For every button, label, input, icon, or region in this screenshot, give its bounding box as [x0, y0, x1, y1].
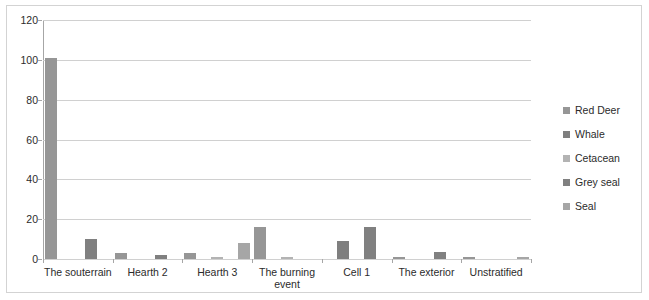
x-axis-tick-mark — [461, 259, 462, 263]
bars-layer — [43, 20, 531, 259]
y-axis-tick-label: 20 — [26, 213, 38, 225]
legend-item[interactable]: Seal — [563, 194, 643, 218]
legend-item-label: Whale — [575, 128, 605, 140]
y-axis-tick-mark — [38, 20, 42, 21]
y-axis-tick-label: 40 — [26, 173, 38, 185]
bar — [45, 58, 57, 259]
y-axis-tick-mark — [38, 60, 42, 61]
y-axis-tick-mark — [38, 219, 42, 220]
legend-item[interactable]: Whale — [563, 122, 643, 146]
bar — [238, 243, 250, 259]
legend-item-label: Seal — [575, 200, 596, 212]
bar — [184, 253, 196, 259]
x-axis-tick-label: The souterrain — [43, 266, 113, 278]
bar — [115, 253, 127, 259]
y-axis-tick-mark — [38, 259, 42, 260]
legend-item[interactable]: Red Deer — [563, 98, 643, 122]
bar — [155, 255, 167, 259]
bar — [254, 227, 266, 259]
legend-item[interactable]: Grey seal — [563, 170, 643, 194]
bar — [281, 257, 293, 259]
x-axis-tick-label: Unstratified — [461, 266, 531, 278]
bar — [211, 257, 223, 259]
x-axis-tick-mark — [531, 259, 532, 263]
bar — [463, 257, 475, 259]
x-axis-tick-label: The exterior — [392, 266, 462, 278]
x-axis-tick-mark — [113, 259, 114, 263]
legend-item-label: Cetacean — [575, 152, 620, 164]
x-axis-tick-mark — [182, 259, 183, 263]
y-axis-tick-label: 100 — [20, 54, 38, 66]
bar — [337, 241, 349, 259]
legend-swatch-icon — [563, 131, 570, 138]
y-axis-labels: 020406080100120 — [7, 20, 38, 259]
bar — [434, 252, 446, 259]
x-axis-tick-label: The burning event — [252, 266, 322, 290]
chart-legend: Red DeerWhaleCetaceanGrey sealSeal — [563, 98, 643, 218]
y-axis-tick-mark — [38, 179, 42, 180]
y-axis-tick-label: 80 — [26, 94, 38, 106]
gridline — [43, 259, 531, 260]
bar — [85, 239, 97, 259]
x-axis-tick-label: Cell 1 — [322, 266, 392, 278]
x-axis-tick-mark — [322, 259, 323, 263]
x-axis-labels: The souterrainHearth 2Hearth 3The burnin… — [43, 266, 531, 296]
x-axis-tick-mark — [43, 259, 44, 263]
y-axis-tick-mark — [38, 140, 42, 141]
x-axis-tick-label: Hearth 2 — [113, 266, 183, 278]
bar — [364, 227, 376, 259]
bar — [393, 257, 405, 259]
chart-container: 020406080100120 The souterrainHearth 2He… — [6, 5, 642, 293]
legend-item-label: Red Deer — [575, 104, 620, 116]
legend-swatch-icon — [563, 203, 570, 210]
legend-swatch-icon — [563, 179, 570, 186]
plot-area — [43, 20, 531, 259]
y-axis-tick-mark — [38, 100, 42, 101]
y-axis-tick-label: 60 — [26, 134, 38, 146]
legend-swatch-icon — [563, 107, 570, 114]
y-axis-tick-label: 120 — [20, 14, 38, 26]
x-axis-tick-mark — [252, 259, 253, 263]
legend-swatch-icon — [563, 155, 570, 162]
legend-item[interactable]: Cetacean — [563, 146, 643, 170]
x-axis-tick-label: Hearth 3 — [182, 266, 252, 278]
x-axis-tick-mark — [392, 259, 393, 263]
legend-item-label: Grey seal — [575, 176, 620, 188]
bar — [517, 257, 529, 259]
